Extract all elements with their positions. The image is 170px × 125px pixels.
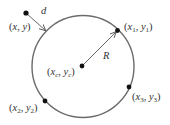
point-3-label: (x3, y3) xyxy=(132,91,161,104)
radius-arrow xyxy=(82,32,116,66)
point-1-dot xyxy=(115,28,120,33)
point-2-label: (x2, y2) xyxy=(9,102,38,115)
point-3-dot xyxy=(127,85,132,90)
point-1-label: (x1, y1) xyxy=(124,21,153,34)
point-2-dot xyxy=(43,99,48,104)
external-point-label: (x, y) xyxy=(9,21,31,33)
radius-label: R xyxy=(102,50,110,61)
circle-diagram: d R (x, y) (x1, y1) (xc, yc) (x2, y2) (x… xyxy=(0,0,170,125)
center-label: (xc, yc) xyxy=(47,66,75,79)
center-point-dot xyxy=(80,64,85,69)
external-point-dot xyxy=(23,10,28,15)
distance-label: d xyxy=(41,5,47,16)
